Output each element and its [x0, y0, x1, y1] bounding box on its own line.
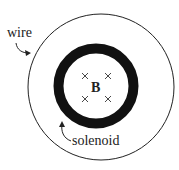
x-mark-icon: [82, 96, 88, 102]
x-mark-icon: [82, 73, 88, 79]
solenoid-label: solenoid: [72, 134, 119, 148]
wire-arrowhead-icon: [25, 50, 31, 56]
wire-label: wire: [7, 26, 32, 40]
solenoid-arrowhead-icon: [59, 121, 65, 127]
x-mark-icon: [105, 96, 111, 102]
field-label: B: [91, 81, 100, 95]
x-mark-icon: [105, 73, 111, 79]
